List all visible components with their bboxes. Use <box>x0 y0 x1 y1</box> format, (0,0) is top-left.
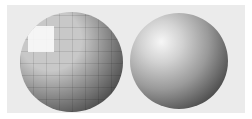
faceted-sphere <box>20 12 123 112</box>
smooth-sphere <box>130 13 228 109</box>
specular-highlight <box>28 26 54 52</box>
